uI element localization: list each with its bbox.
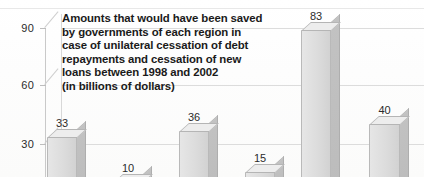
chart-title: Amounts that would have been saved by go…: [62, 12, 312, 94]
bar-5-side-face: [331, 14, 340, 177]
y-tick-mark-30: [40, 144, 46, 145]
bar-6: [369, 124, 400, 177]
bar-3-front-face: [179, 131, 209, 177]
y-axis-tick-label-60: 60: [8, 79, 34, 91]
bar-6-front-face: [369, 124, 400, 177]
chart-title-line-6: (in billions of dollars): [62, 80, 312, 94]
top-border-rule: [0, 8, 424, 9]
y-tick-mark-60: [40, 85, 46, 86]
bar-1-front-face: [47, 137, 77, 177]
bar-3: [179, 131, 209, 177]
chart-title-line-4: repayments and cessation of new: [62, 53, 312, 67]
y-axis-front-line: [45, 28, 46, 177]
chart-title-line-3: case of unilateral cessation of debt: [62, 39, 312, 53]
bar-value-2: 10: [113, 162, 143, 174]
y-tick-mark-90: [40, 28, 46, 29]
bar-1: [47, 137, 77, 177]
bar-chart: 90 60 30 33 10 36 15 83: [0, 0, 424, 177]
bar-4: [245, 172, 275, 177]
chart-title-line-5: loans between 1998 and 2002: [62, 66, 312, 80]
bar-value-3: 36: [179, 111, 209, 123]
y-axis-tick-label-30: 30: [8, 138, 34, 150]
chart-title-line-2: by governments of each region in: [62, 26, 312, 40]
bar-value-6: 40: [369, 104, 400, 116]
bar-2-top-face: [113, 174, 153, 177]
chart-title-line-1: Amounts that would have been saved: [62, 12, 312, 26]
bar-value-4: 15: [245, 152, 275, 164]
depth-diagonal-60: [44, 68, 58, 85]
y-axis-tick-label-90: 90: [8, 22, 34, 34]
depth-diagonal-90: [44, 11, 58, 28]
bar-value-1: 33: [47, 117, 77, 129]
